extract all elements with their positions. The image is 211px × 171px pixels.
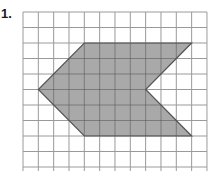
grid-figure [0,0,211,171]
